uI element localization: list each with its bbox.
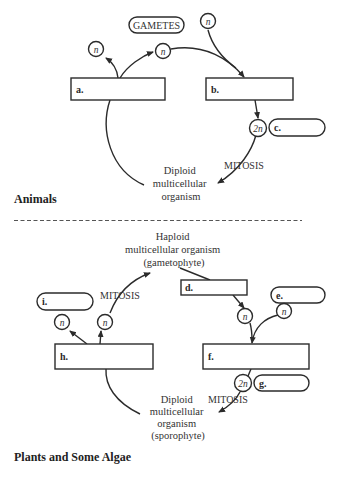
- pill-g-label: g.: [259, 378, 267, 389]
- 2n-label: 2n: [253, 124, 263, 134]
- pill-c-label: c.: [274, 122, 281, 133]
- box-a[interactable]: [71, 78, 165, 100]
- box-d-label: d.: [185, 282, 194, 293]
- arrow-a-to-n-left: [106, 58, 118, 78]
- line-f-to-zygote: [248, 369, 251, 376]
- line-n-to-f: [250, 323, 252, 340]
- box-f[interactable]: [203, 344, 309, 369]
- mitosis-label-top: MITOSIS: [100, 290, 140, 301]
- n-label: n: [206, 17, 211, 27]
- 2n-label: 2n: [238, 379, 248, 389]
- life-cycle-diagram: a. b. n n n GAMETES 2n c. MITOSIS Diploi…: [0, 0, 340, 477]
- gametes-label: GAMETES: [133, 20, 180, 31]
- n-label: n: [94, 45, 99, 55]
- arrow-b-to-zygote: [255, 100, 258, 118]
- arrow-gamete-to-b: [171, 48, 244, 77]
- pill-i-label: i.: [42, 296, 48, 307]
- arrow-n-to-b: [208, 30, 236, 68]
- diploid-organism-label: Diploid multicellular organism: [153, 165, 209, 202]
- box-a-label: a.: [76, 84, 84, 95]
- pill-e-label: e.: [276, 290, 283, 301]
- haploid-organism-label: Haploid multicellular organism (gametoph…: [125, 231, 223, 269]
- line-gametophyte-to-d: [180, 268, 210, 280]
- box-h[interactable]: [55, 344, 153, 369]
- arrow-n-right-to-f: [252, 315, 278, 343]
- arc-organism-to-a: [106, 100, 144, 185]
- box-f-label: f.: [208, 351, 214, 362]
- n-label: n: [282, 307, 287, 317]
- box-b-label: b.: [211, 84, 220, 95]
- arrow-a-to-gamete: [120, 52, 153, 78]
- arrow-h-to-spore: [100, 331, 101, 344]
- arc-sporophyte-to-h: [106, 369, 140, 414]
- n-label: n: [243, 312, 248, 322]
- n-label: n: [103, 318, 108, 328]
- sporophyte-label: Diploid multicellular organism (sporophy…: [150, 394, 206, 442]
- arrow-h-to-n-left: [70, 331, 87, 344]
- animals-cycle: a. b. n n n GAMETES 2n c. MITOSIS Diploi…: [14, 14, 325, 207]
- arrow-d-to-n: [233, 295, 244, 308]
- section-title-plants: Plants and Some Algae: [14, 450, 132, 464]
- arrow-zygote-to-organism: [218, 135, 256, 183]
- section-title-animals: Animals: [14, 192, 57, 206]
- mitosis-label: MITOSIS: [224, 160, 264, 171]
- box-h-label: h.: [60, 351, 69, 362]
- n-label: n: [161, 47, 166, 57]
- n-label: n: [60, 318, 65, 328]
- plants-cycle: Haploid multicellular organism (gametoph…: [14, 231, 325, 464]
- mitosis-label-bottom: MITOSIS: [208, 394, 248, 405]
